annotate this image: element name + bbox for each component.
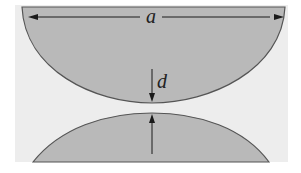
gap-label: d xyxy=(157,70,168,92)
width-label: a xyxy=(146,5,156,27)
diagram-canvas: a d xyxy=(0,0,301,173)
diagram-figure: a d xyxy=(0,0,301,173)
